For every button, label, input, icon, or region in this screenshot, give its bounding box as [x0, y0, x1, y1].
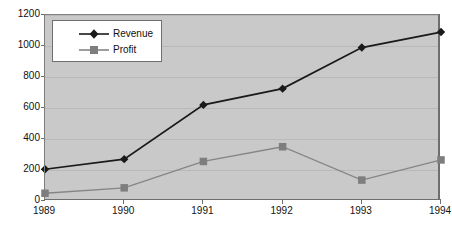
x-axis-tick-mark	[361, 199, 362, 204]
y-axis-tick-label: 200	[0, 164, 40, 174]
line-chart: 020040060080010001200 198919901991199219…	[0, 0, 452, 230]
data-point-revenue	[41, 165, 49, 173]
series-line-profit	[45, 147, 441, 194]
data-point-profit	[358, 176, 366, 184]
diamond-marker-icon	[79, 27, 109, 41]
data-point-profit	[200, 158, 208, 166]
data-point-revenue	[278, 84, 286, 92]
legend-label-revenue: Revenue	[113, 28, 153, 40]
x-axis-tick-label: 1989	[33, 205, 55, 216]
y-axis-tick-label: 800	[0, 71, 40, 81]
x-axis-tick-label: 1991	[191, 205, 213, 216]
x-axis-tick-mark	[202, 199, 203, 204]
data-point-profit	[41, 190, 49, 198]
x-axis-tick-mark	[123, 199, 124, 204]
legend-item-profit: Profit	[53, 42, 161, 58]
data-point-revenue	[437, 28, 445, 36]
legend: Revenue Profit	[52, 20, 162, 62]
x-axis-tick-label: 1993	[350, 205, 372, 216]
y-axis-tick-label: 0	[0, 195, 40, 205]
y-axis-tick-label: 1000	[0, 40, 40, 50]
x-axis-tick-label: 1992	[270, 205, 292, 216]
x-axis-line	[44, 199, 441, 200]
data-point-profit	[120, 184, 128, 192]
x-axis-tick-label: 1994	[429, 205, 451, 216]
data-point-revenue	[358, 43, 366, 51]
data-point-profit	[437, 156, 445, 164]
y-axis-tick-label: 400	[0, 133, 40, 143]
x-axis-tick-mark	[440, 199, 441, 204]
legend-item-revenue: Revenue	[53, 26, 161, 42]
data-point-profit	[279, 143, 287, 151]
square-marker-icon	[79, 43, 109, 57]
x-axis-tick-label: 1990	[112, 205, 134, 216]
y-axis-tick-label: 1200	[0, 9, 40, 19]
y-axis-line	[44, 14, 45, 200]
x-axis-tick-mark	[282, 199, 283, 204]
y-axis-tick-label: 600	[0, 102, 40, 112]
legend-label-profit: Profit	[113, 44, 136, 56]
